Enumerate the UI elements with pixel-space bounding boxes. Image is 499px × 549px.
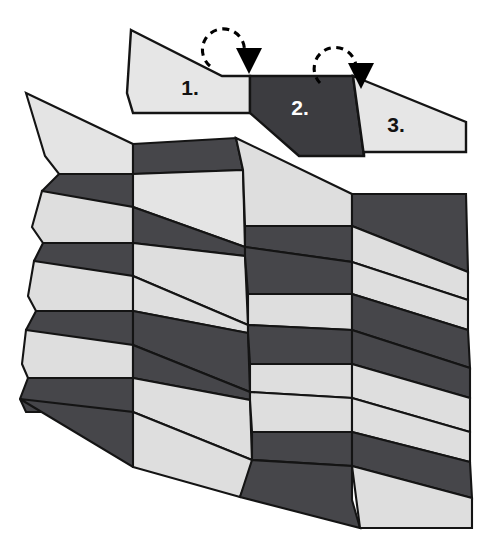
fold-arrow-1-head-icon: [236, 48, 262, 74]
tessellation-facet: [26, 93, 133, 174]
fold-arrow-1-arc: [202, 29, 244, 66]
tessellation-facet: [240, 460, 360, 528]
tessellation-field: [20, 93, 472, 528]
step-label-1: 1.: [181, 76, 199, 99]
tessellation-facet: [248, 294, 352, 330]
strip-segment-1: [127, 30, 250, 113]
tessellation-facet: [250, 392, 352, 432]
folding-strip: [127, 30, 466, 156]
figure-root: 1.2.3.: [0, 0, 499, 549]
step-label-2: 2.: [291, 96, 309, 119]
tessellation-facet: [133, 138, 243, 174]
tessellation-fold-diagram: 1.2.3.: [0, 0, 499, 549]
tessellation-facet: [248, 325, 352, 364]
step-label-3: 3.: [387, 113, 405, 136]
strip-segment-3: [353, 76, 466, 156]
